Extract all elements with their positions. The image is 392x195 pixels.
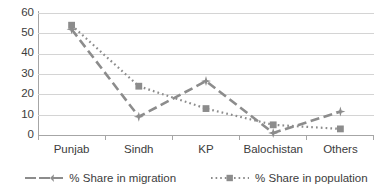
x-axis-category-labels: Punjab Sindh KP Balochistan Others [38, 142, 374, 160]
legend-item-population[interactable]: % Share in population [210, 171, 368, 185]
x-tick-0 [38, 135, 39, 140]
x-tick-3 [239, 135, 240, 140]
y-tick-0: 0 [2, 129, 34, 141]
gridline-50 [38, 33, 374, 34]
gridline-60 [38, 13, 374, 14]
chart-container: 60 50 40 30 20 10 0 Punjab Sindh KP Balo… [0, 0, 392, 195]
x-label-others: Others [307, 142, 374, 160]
x-tick-1 [105, 135, 106, 140]
y-tick-10: 10 [2, 109, 34, 121]
legend-item-migration[interactable]: % Share in migration [24, 171, 176, 185]
y-tick-60: 60 [2, 7, 34, 19]
y-tick-50: 50 [2, 27, 34, 39]
gridline-40 [38, 54, 374, 55]
legend-swatch-migration-icon [24, 172, 64, 184]
x-label-kp: KP [172, 142, 239, 160]
legend-label-population: % Share in population [255, 171, 368, 185]
legend-label-migration: % Share in migration [69, 171, 176, 185]
x-tick-2 [172, 135, 173, 140]
x-axis-line [38, 135, 374, 136]
x-label-sindh: Sindh [105, 142, 172, 160]
x-label-punjab: Punjab [38, 142, 105, 160]
y-tick-40: 40 [2, 47, 34, 59]
x-tick-4 [306, 135, 307, 140]
legend-swatch-population-icon [210, 172, 250, 184]
y-tick-30: 30 [2, 68, 34, 80]
gridline-20 [38, 94, 374, 95]
gridline-30 [38, 74, 374, 75]
chart-legend: % Share in migration % Share in populati… [0, 166, 392, 190]
y-tick-20: 20 [2, 88, 34, 100]
gridline-10 [38, 115, 374, 116]
x-label-balochistan: Balochistan [240, 142, 307, 160]
plot-area [38, 13, 374, 135]
x-tick-5 [373, 135, 374, 140]
